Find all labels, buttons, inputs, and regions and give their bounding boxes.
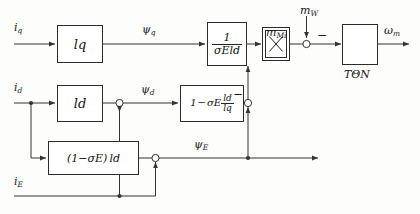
signal-label-psi-d: ψd <box>141 84 154 96</box>
minus-sign-psi-E-upper: − <box>233 87 243 101</box>
block-one-minus-sigma-ratio-label: 1−σEldlq <box>190 94 234 114</box>
summing-junction-psi-d <box>116 99 123 106</box>
signal-label-psi-E: ψE <box>194 139 208 151</box>
signal-label-iq: iq <box>14 22 22 34</box>
signal-label-mMi: mMi <box>266 27 286 39</box>
block-lq[interactable]: lq <box>57 25 103 63</box>
summing-junction-psi-E-lower <box>152 154 159 161</box>
block-one-minus-sigma-ld[interactable]: (1−σE)ld <box>48 141 139 175</box>
block-inverse-sigma-ld[interactable]: 1 σEld <box>207 22 247 66</box>
block-ld[interactable]: ld <box>57 85 103 122</box>
block-integrator-label: TΘN <box>344 68 370 81</box>
signal-label-psi-q: ψq <box>142 24 155 36</box>
signal-label-iE: iE <box>14 176 23 188</box>
block-lq-label: lq <box>74 37 87 52</box>
block-integrator[interactable] <box>342 24 378 65</box>
signal-label-omega-m: ωm <box>384 25 400 37</box>
summing-junction-load-torque <box>303 40 310 47</box>
signal-label-id: id <box>14 82 22 94</box>
block-diagram-canvas: lq 1 σEld TΘN ld 1−σEldlq (1−σE)ld iq ψq <box>0 0 420 214</box>
minus-sign-load-torque: − <box>317 28 327 42</box>
block-ld-label: ld <box>74 96 87 111</box>
signal-label-mW: mW <box>300 5 318 17</box>
summing-junction-psi-E-upper <box>244 99 251 106</box>
block-inverse-sigma-ld-fraction: 1 σEld <box>212 32 242 56</box>
block-one-minus-sigma-ld-label: (1−σE)ld <box>67 152 120 165</box>
